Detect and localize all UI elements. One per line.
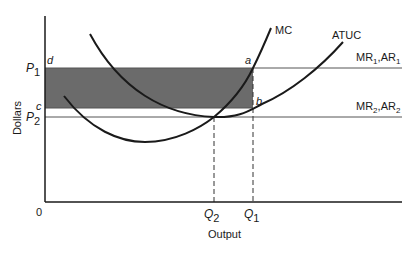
mr2-ar2-label: MR2,AR2 — [356, 100, 401, 115]
point-b-label: b — [256, 95, 262, 107]
origin-label: 0 — [36, 206, 42, 218]
point-d-label: d — [47, 54, 54, 66]
profit-rectangle — [45, 68, 253, 108]
cost-revenue-diagram: MC ATUC MR1,AR1 MR2,AR2 d a b c P1 P2 Do… — [0, 0, 414, 253]
x-axis-label: Output — [208, 228, 241, 240]
mc-label: MC — [275, 24, 292, 36]
atuc-label: ATUC — [332, 29, 361, 41]
point-c-label: c — [36, 100, 42, 112]
p1-label: P1 — [26, 61, 40, 78]
p2-label: P2 — [26, 110, 40, 127]
y-axis-label: Dollars — [11, 100, 23, 135]
mr1-ar1-label: MR1,AR1 — [356, 51, 401, 66]
q2-label: Q2 — [204, 207, 219, 224]
point-a-label: a — [245, 54, 251, 66]
q1-label: Q1 — [244, 207, 259, 224]
